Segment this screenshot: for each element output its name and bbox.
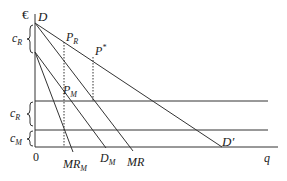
cR-top-label: cR bbox=[12, 31, 22, 47]
DM-label: DM bbox=[99, 151, 117, 167]
currency-label: € bbox=[22, 7, 29, 22]
mrm-line bbox=[35, 52, 73, 152]
cM-label: cM bbox=[10, 131, 23, 147]
PR-label: PR bbox=[65, 30, 78, 46]
MRM-label: MRM bbox=[62, 157, 88, 173]
dm-line bbox=[35, 52, 106, 148]
MR-label: MR bbox=[126, 155, 145, 169]
cR-low-label: cR bbox=[10, 106, 20, 122]
mr-line bbox=[35, 23, 133, 151]
brace-cM bbox=[27, 131, 33, 146]
Dprime-label: D′ bbox=[221, 134, 234, 149]
brace-cR-top bbox=[27, 25, 33, 53]
origin-label: 0 bbox=[33, 150, 39, 164]
D-label: D bbox=[37, 9, 48, 24]
q-axis-label: q bbox=[264, 151, 270, 165]
brace-cR-low bbox=[27, 102, 33, 126]
Pstar-label: P* bbox=[94, 43, 106, 58]
PM-label: PM bbox=[62, 83, 78, 99]
economics-diagram: € D PR P* PM cR cR cM 0 MRM DM MR D′ q bbox=[0, 0, 287, 181]
